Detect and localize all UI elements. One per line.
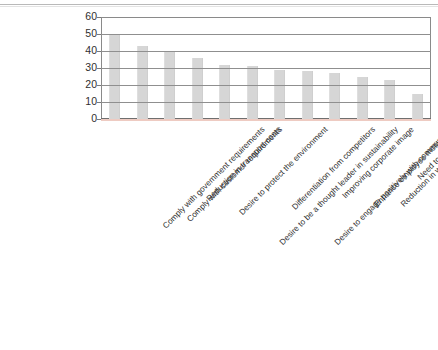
gridline	[101, 68, 431, 69]
x-axis-category-label: Reduction in transport costs	[204, 125, 282, 203]
x-axis-category-label: Desire to be a thought leader in sustain…	[278, 125, 400, 247]
x-axis-category-label: Comply with government requirements	[161, 125, 266, 230]
bar	[412, 94, 423, 120]
bar	[302, 71, 313, 119]
y-axis: 0102030405060	[70, 0, 97, 130]
gridline	[101, 34, 431, 35]
y-axis-tick-label: 50	[73, 28, 97, 38]
bar	[219, 65, 230, 119]
x-axis-category-label: Improving corporate image	[341, 125, 416, 200]
bar	[137, 46, 148, 119]
bar	[192, 58, 203, 119]
y-axis-tick-label: 60	[73, 11, 97, 21]
gridline	[101, 51, 431, 52]
x-axis-baseline-tint	[101, 119, 431, 121]
gridline	[101, 102, 431, 103]
y-axis-tick-label: 10	[73, 96, 97, 106]
gridline	[101, 85, 431, 86]
y-axis-tick-label: 0	[73, 113, 97, 123]
bar	[274, 70, 285, 119]
bar	[109, 34, 120, 119]
y-axis-tick-mark	[97, 17, 101, 18]
y-axis-tick-mark	[97, 119, 101, 120]
bar	[329, 73, 340, 119]
bar	[357, 77, 368, 120]
bar-chart-figure: 0102030405060 Comply with government req…	[0, 0, 438, 350]
y-axis-tick-label: 40	[73, 45, 97, 55]
bar	[247, 66, 258, 119]
y-axis-tick-label: 20	[73, 79, 97, 89]
y-axis-tick-label: 30	[73, 62, 97, 72]
